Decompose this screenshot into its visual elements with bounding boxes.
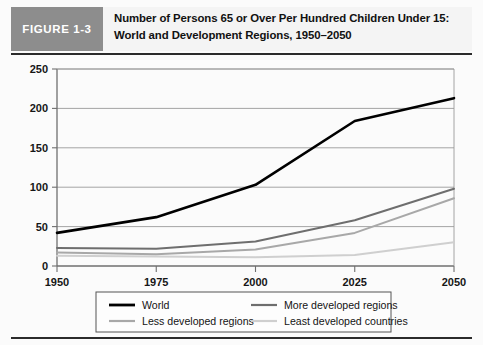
y-axis-tick-label: 250 [30,63,48,75]
footer-divider-rule [11,337,472,339]
x-axis-tick-label: 2025 [343,276,367,288]
x-axis-tick-label: 1950 [45,276,69,288]
chart-panel: 05010015020025019501975200020252050World… [11,58,472,338]
line-chart-plot: 05010015020025019501975200020252050World… [11,58,472,338]
legend-label: Less developed regions [142,315,254,327]
x-axis-tick-label: 1975 [144,276,168,288]
y-axis-tick-label: 200 [30,102,48,114]
y-axis-tick-label: 50 [36,221,48,233]
figure-title: Number of Persons 65 or Over Per Hundred… [103,7,472,51]
header-divider-rule [11,53,472,55]
y-axis-tick-label: 150 [30,142,48,154]
x-axis-tick-label: 2050 [442,276,466,288]
figure-container: FIGURE 1-3 Number of Persons 65 or Over … [0,0,483,345]
legend-label: Least developed countries [284,315,408,327]
y-axis-tick-label: 100 [30,181,48,193]
x-axis-tick-label: 2000 [243,276,267,288]
figure-number-badge: FIGURE 1-3 [11,7,103,51]
figure-header: FIGURE 1-3 Number of Persons 65 or Over … [11,7,472,51]
legend-label: World [142,299,170,311]
y-axis-tick-label: 0 [42,260,48,272]
legend-label: More developed regions [284,299,398,311]
series-line [57,98,454,233]
